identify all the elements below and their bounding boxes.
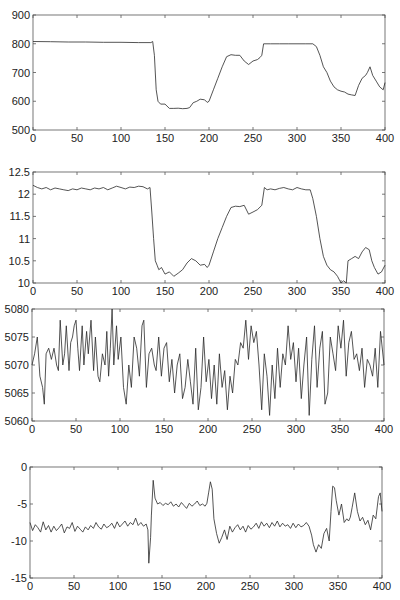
data-line-panel2 [33, 185, 385, 283]
x-tick-label: 100 [111, 423, 129, 435]
x-tick-label: 0 [29, 423, 35, 435]
x-tick-label: 300 [287, 423, 305, 435]
x-tick-label: 100 [112, 285, 130, 297]
data-line-panel4 [30, 480, 382, 563]
x-tick-label: 200 [200, 285, 218, 297]
x-tick-label: 250 [243, 423, 261, 435]
x-tick-label: 200 [200, 132, 218, 144]
x-tick-label: 50 [71, 285, 83, 297]
y-tick-label: 5075 [5, 331, 29, 343]
x-tick-label: 150 [155, 423, 173, 435]
data-line-panel1 [33, 42, 385, 109]
x-tick-label: 400 [373, 580, 391, 592]
y-tick-label: 11 [19, 233, 30, 245]
chart-panel-2: 0501001502002503003504001010.51111.51212… [9, 166, 395, 297]
y-tick-label: 10.5 [9, 255, 30, 267]
y-tick-label: 500 [12, 124, 30, 136]
y-tick-label: -10 [11, 535, 27, 547]
x-tick-label: 350 [331, 423, 349, 435]
y-tick-label: 11.5 [9, 210, 30, 222]
x-tick-label: 350 [329, 580, 347, 592]
x-tick-label: 400 [376, 285, 394, 297]
y-tick-label: 12.5 [9, 166, 30, 178]
y-tick-label: 800 [12, 38, 30, 50]
x-tick-label: 400 [375, 423, 393, 435]
y-tick-label: 10 [18, 277, 30, 289]
y-tick-label: 700 [12, 67, 30, 79]
x-tick-label: 0 [30, 132, 36, 144]
axes-frame [33, 15, 385, 130]
chart-figure: 050100150200250300350400500600700800900 … [0, 0, 400, 600]
x-tick-label: 150 [156, 132, 174, 144]
y-tick-label: 5070 [5, 359, 29, 371]
y-tick-label: 12 [18, 188, 30, 200]
x-tick-label: 100 [109, 580, 127, 592]
x-tick-label: 250 [241, 580, 259, 592]
axes-frame [30, 467, 382, 578]
y-tick-label: 5065 [5, 387, 29, 399]
x-tick-label: 350 [332, 285, 350, 297]
x-tick-label: 150 [153, 580, 171, 592]
y-tick-label: -5 [17, 498, 27, 510]
x-tick-label: 50 [68, 580, 80, 592]
x-tick-label: 300 [285, 580, 303, 592]
x-tick-label: 200 [197, 580, 215, 592]
chart-panel-1: 050100150200250300350400500600700800900 [12, 9, 395, 144]
x-tick-label: 400 [376, 132, 394, 144]
x-tick-label: 0 [27, 580, 33, 592]
x-tick-label: 50 [70, 423, 82, 435]
x-tick-label: 200 [199, 423, 217, 435]
y-tick-label: 5060 [5, 415, 29, 427]
y-tick-label: 5080 [5, 303, 29, 315]
x-tick-label: 250 [244, 285, 262, 297]
chart-panel-4: 050100150200250300350400-15-10-50 [11, 461, 391, 592]
y-tick-label: 900 [12, 9, 30, 21]
x-tick-label: 250 [244, 132, 262, 144]
x-tick-label: 300 [288, 132, 306, 144]
y-tick-label: 0 [21, 461, 27, 473]
x-tick-label: 300 [288, 285, 306, 297]
x-tick-label: 350 [332, 132, 350, 144]
y-tick-label: -15 [11, 572, 27, 584]
x-tick-label: 150 [156, 285, 174, 297]
x-tick-label: 0 [30, 285, 36, 297]
y-tick-label: 600 [12, 95, 30, 107]
x-tick-label: 100 [112, 132, 130, 144]
chart-panel-3: 0501001502002503003504005060506550705075… [5, 303, 394, 435]
data-line-panel3 [32, 309, 384, 415]
x-tick-label: 50 [71, 132, 83, 144]
